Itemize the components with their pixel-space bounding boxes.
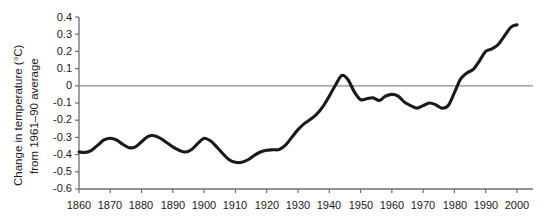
x-tick-label: 1870	[98, 199, 122, 211]
chart-canvas: Change in temperature (°C) from 1961–90 …	[0, 0, 542, 224]
x-tick-label: 1950	[349, 199, 373, 211]
x-tick-label: 1860	[67, 199, 91, 211]
axes	[75, 17, 533, 193]
y-tick-label: -0.3	[53, 131, 72, 143]
x-tick-label: 1910	[223, 199, 247, 211]
x-tick-label: 1880	[129, 199, 153, 211]
temperature-series-line	[79, 25, 517, 163]
y-tick-label: -0.1	[53, 96, 72, 108]
y-tick-label: -0.6	[53, 182, 72, 194]
y-tick-label: -0.2	[53, 113, 72, 125]
x-tick-label: 1960	[380, 199, 404, 211]
x-tick-label: 1930	[286, 199, 310, 211]
y-axis-title: Change in temperature (°C) from 1961–90 …	[12, 44, 40, 186]
x-tick-label: 1970	[411, 199, 435, 211]
y-tick-labels: 0.4 0.3 0.2 0.1 0 -0.1 -0.2 -0.3 -0.4 -0…	[53, 11, 72, 194]
y-axis-title-line2: from 1961–90 average	[28, 58, 40, 174]
x-tick-label: 1900	[192, 199, 216, 211]
y-tick-label: -0.4	[53, 148, 72, 160]
x-tick-label: 1980	[443, 199, 467, 211]
temperature-anomaly-chart: Change in temperature (°C) from 1961–90 …	[0, 0, 542, 224]
x-tick-label: 1990	[474, 199, 498, 211]
y-tick-label: -0.5	[53, 165, 72, 177]
x-tick-label: 1920	[255, 199, 279, 211]
x-tick-label: 1890	[161, 199, 185, 211]
y-tick-label: 0.3	[57, 28, 72, 40]
x-tick-label: 1940	[317, 199, 341, 211]
y-tick-label: 0.2	[57, 45, 72, 57]
y-tick-label: 0.1	[57, 62, 72, 74]
y-axis-title-line1: Change in temperature (°C)	[12, 44, 24, 186]
y-tick-label: 0.4	[57, 11, 72, 23]
x-tick-labels: 1860 1870 1880 1890 1900 1910 1920 1930 …	[67, 199, 529, 211]
y-tick-label: 0	[66, 79, 72, 91]
x-tick-label: 2000	[505, 199, 529, 211]
